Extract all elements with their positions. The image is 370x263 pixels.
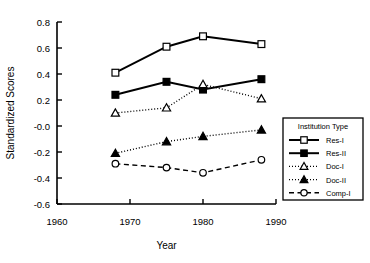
- data-point-filled-square: [112, 91, 119, 98]
- data-point-open-circle: [258, 157, 265, 164]
- y-tick-label: 0.4: [37, 69, 50, 80]
- data-point-open-square: [301, 137, 307, 143]
- legend-item-label: Res-I: [326, 136, 344, 145]
- y-tick-label: -0.6: [34, 199, 50, 210]
- y-axis-title: Standardized Scores: [5, 67, 16, 160]
- data-point-filled-square: [163, 78, 170, 85]
- y-tick-label: 0.6: [37, 43, 50, 54]
- y-tick-label: -0.2: [34, 147, 50, 158]
- legend: Institution Type Res-IRes-IIDoc-IDoc-IIC…: [283, 118, 363, 200]
- legend-item-label: Doc-I: [326, 162, 344, 171]
- y-tick-label: 0.8: [37, 17, 50, 28]
- data-point-open-square: [112, 69, 119, 76]
- data-point-open-circle: [163, 164, 170, 171]
- data-point-filled-square: [301, 150, 307, 156]
- data-point-open-circle: [301, 190, 307, 196]
- legend-title: Institution Type: [298, 122, 348, 131]
- x-tick-label: 1970: [119, 216, 140, 227]
- data-point-open-circle: [200, 170, 207, 177]
- data-point-open-circle: [112, 160, 119, 167]
- y-tick-label: -0.4: [34, 173, 50, 184]
- data-point-open-square: [258, 41, 265, 48]
- legend-item-label: Comp-I: [326, 189, 351, 198]
- y-tick-label: 0.2: [37, 95, 50, 106]
- x-axis-title: Year: [156, 240, 177, 251]
- x-tick-label: 1990: [265, 216, 286, 227]
- data-point-open-square: [200, 33, 207, 40]
- x-tick-label: 1960: [46, 216, 67, 227]
- data-point-filled-square: [258, 76, 265, 83]
- legend-item-label: Res-II: [326, 149, 346, 158]
- y-tick-label: -0.0: [34, 121, 50, 132]
- standardized-scores-line-chart: 0.80.60.40.2-0.0-0.2-0.4-0.6 19601970198…: [0, 0, 370, 263]
- x-tick-label: 1980: [192, 216, 213, 227]
- data-point-open-square: [163, 43, 170, 50]
- legend-item-label: Doc-II: [326, 176, 346, 185]
